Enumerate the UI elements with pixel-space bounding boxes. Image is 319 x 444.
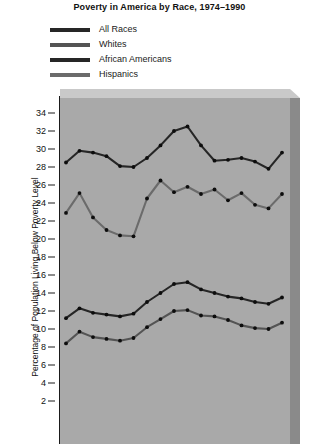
data-point <box>226 198 230 202</box>
y-tick-mark <box>48 239 55 240</box>
data-point <box>105 313 109 317</box>
y-tick-label: 16 <box>36 270 46 280</box>
legend-swatch-all-races <box>50 28 90 32</box>
data-point <box>64 316 68 320</box>
data-point <box>213 159 217 163</box>
y-tick-label: 34 <box>36 108 46 118</box>
series-line-hispanics <box>66 181 282 237</box>
slab-top-bevel <box>60 89 300 98</box>
y-tick-mark <box>48 203 55 204</box>
data-point <box>91 216 95 220</box>
legend-label-hispanics: Hispanics <box>99 70 138 79</box>
y-tick-label: 24 <box>36 198 46 208</box>
data-point <box>253 160 257 164</box>
data-point <box>105 337 109 341</box>
y-axis-ticks: 343230282624222018161412108642 <box>0 89 60 444</box>
y-tick-label: 26 <box>36 180 46 190</box>
y-tick-label: 28 <box>36 162 46 172</box>
data-point <box>91 311 95 315</box>
data-point <box>267 327 271 331</box>
data-point <box>226 318 230 322</box>
slab-right-bevel <box>290 98 300 444</box>
data-point <box>213 291 217 295</box>
data-point <box>78 330 82 334</box>
y-tick-mark <box>48 347 55 348</box>
y-tick-mark <box>48 113 55 114</box>
y-tick-label: 10 <box>36 324 46 334</box>
y-tick-mark <box>48 185 55 186</box>
data-point <box>132 165 136 169</box>
data-point <box>280 321 284 325</box>
y-tick-mark <box>48 311 55 312</box>
legend-swatch-whites <box>50 43 90 47</box>
y-tick-label: 14 <box>36 288 46 298</box>
data-point <box>240 191 244 195</box>
data-point <box>64 211 68 215</box>
data-point <box>186 185 190 189</box>
data-point <box>91 151 95 155</box>
y-tick-mark <box>48 167 55 168</box>
data-point <box>118 315 122 319</box>
y-tick-label: 12 <box>36 306 46 316</box>
data-point <box>172 282 176 286</box>
data-point <box>240 156 244 160</box>
data-point <box>159 317 163 321</box>
data-point <box>280 151 284 155</box>
data-point <box>159 291 163 295</box>
data-point <box>132 312 136 316</box>
data-point <box>280 296 284 300</box>
data-point <box>118 164 122 168</box>
plot-area <box>60 98 290 444</box>
series-canvas <box>60 98 290 444</box>
data-point <box>253 326 257 330</box>
data-point <box>145 325 149 329</box>
y-tick-mark <box>48 149 55 150</box>
data-point <box>172 190 176 194</box>
y-tick-mark <box>48 131 55 132</box>
data-point <box>145 197 149 201</box>
y-tick-mark <box>48 365 55 366</box>
y-tick-mark <box>48 257 55 258</box>
data-point <box>64 161 68 165</box>
data-point <box>253 300 257 304</box>
legend-swatch-african-americans <box>50 58 90 62</box>
poverty-line-chart: Poverty in America by Race, 1974–1990 Al… <box>0 0 319 444</box>
data-point <box>213 315 217 319</box>
y-tick-mark <box>48 329 55 330</box>
legend-item-hispanics: Hispanics <box>50 67 280 82</box>
chart-title: Poverty in America by Race, 1974–1990 <box>0 2 319 12</box>
data-point <box>132 234 136 238</box>
chart-legend: All Races Whites African Americans Hispa… <box>50 22 280 82</box>
data-point <box>172 129 176 133</box>
data-point <box>78 149 82 153</box>
data-point <box>118 339 122 343</box>
data-point <box>91 335 95 339</box>
data-point <box>186 280 190 284</box>
data-point <box>172 309 176 313</box>
y-tick-label: 18 <box>36 252 46 262</box>
data-point <box>159 179 163 183</box>
data-point <box>64 342 68 346</box>
legend-item-african-americans: African Americans <box>50 52 280 67</box>
data-point <box>267 167 271 171</box>
y-tick-label: 2 <box>41 396 46 406</box>
legend-label-african-americans: African Americans <box>99 55 172 64</box>
series-line-whites <box>66 310 282 343</box>
data-point <box>186 308 190 312</box>
data-point <box>186 125 190 129</box>
y-tick-label: 22 <box>36 216 46 226</box>
data-point <box>226 158 230 162</box>
legend-item-all-races: All Races <box>50 22 280 37</box>
legend-label-whites: Whites <box>99 40 127 49</box>
data-point <box>240 297 244 301</box>
legend-label-all-races: All Races <box>99 25 137 34</box>
data-point <box>105 154 109 158</box>
data-point <box>132 336 136 340</box>
data-point <box>105 228 109 232</box>
y-tick-label: 30 <box>36 144 46 154</box>
data-point <box>267 207 271 211</box>
y-tick-mark <box>48 275 55 276</box>
data-point <box>280 192 284 196</box>
legend-item-whites: Whites <box>50 37 280 52</box>
y-tick-label: 8 <box>41 342 46 352</box>
